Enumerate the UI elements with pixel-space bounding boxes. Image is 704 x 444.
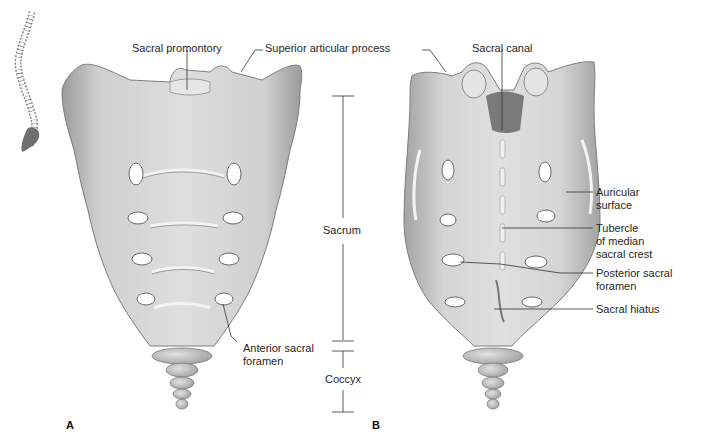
label-line: surface: [596, 199, 639, 212]
label-sacrum: Sacrum: [323, 224, 361, 237]
label-sacral-canal: Sacral canal: [472, 42, 533, 55]
label-tubercle-median-sacral-crest: Tubercle of median sacral crest: [596, 222, 652, 261]
label-line: Auricular: [596, 186, 639, 199]
region-bracket: [332, 96, 354, 412]
label-line: Tubercle: [596, 222, 652, 235]
label-line: Anterior sacral: [243, 342, 314, 355]
label-coccyx: Coccyx: [325, 373, 361, 386]
label-sacral-promontory: Sacral promontory: [132, 42, 222, 55]
label-superior-articular-process: Superior articular process: [265, 42, 390, 55]
label-line: of median: [596, 235, 652, 248]
label-sacral-hiatus: Sacral hiatus: [596, 303, 660, 316]
panel-label-a: A: [66, 419, 74, 431]
label-line: Posterior sacral: [596, 267, 672, 280]
label-posterior-sacral-foramen: Posterior sacral foramen: [596, 267, 672, 293]
label-line: foramen: [243, 355, 314, 368]
panel-label-b: B: [372, 419, 380, 431]
label-auricular-surface: Auricular surface: [596, 186, 639, 212]
label-anterior-sacral-foramen: Anterior sacral foramen: [243, 342, 314, 368]
label-line: foramen: [596, 280, 672, 293]
label-line: sacral crest: [596, 248, 652, 261]
spine-thumbnail-icon: [18, 12, 39, 152]
